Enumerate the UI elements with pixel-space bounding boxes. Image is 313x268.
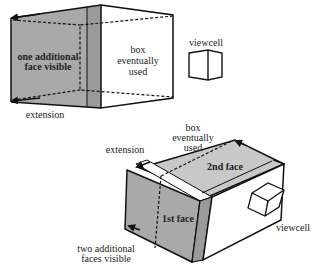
label-viewcell-top: viewcell — [184, 37, 228, 48]
label-box-line3: used — [106, 66, 170, 77]
label-extension-bottom: extension — [100, 144, 150, 155]
label-one-additional-face-line2: face visible — [15, 61, 81, 72]
label-extension-top: extension — [20, 109, 70, 120]
label-box-bottom-line3: used — [166, 142, 220, 153]
face-strip — [87, 5, 101, 108]
viewcell-cube-top — [189, 50, 222, 80]
diagram-canvas: one additional face visible box eventual… — [0, 0, 313, 268]
label-second-face: 2nd face — [200, 161, 250, 172]
label-first-face: 1st face — [160, 213, 196, 224]
label-box-line2: eventually — [106, 55, 170, 66]
diagram-svg — [0, 0, 313, 268]
bottom-figure — [125, 140, 284, 262]
label-viewcell-bottom: viewcell — [273, 222, 313, 233]
label-two-additional-faces-line2: faces visible — [76, 253, 136, 264]
label-box-line1: box — [106, 44, 170, 55]
